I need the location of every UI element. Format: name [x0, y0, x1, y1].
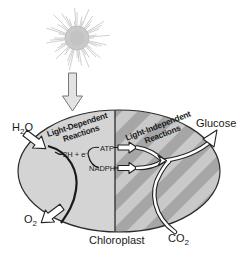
electrons-label: 2H + e-	[63, 150, 87, 160]
oxygen-label: O2	[24, 213, 38, 228]
chloroplast-label: Chloroplast	[89, 234, 145, 246]
sun-core-inner	[70, 31, 85, 46]
photosynthesis-diagram: Light-Dependent Reactions Light-Independ…	[0, 0, 247, 261]
glucose-label: Glucose	[196, 117, 236, 129]
light-energy-arrow	[63, 73, 83, 111]
carbon-dioxide-label: CO2	[168, 232, 190, 247]
atp-label: ATP	[100, 144, 114, 153]
nadph-label: NADPH	[89, 164, 115, 173]
sun-icon	[46, 8, 110, 70]
diagram-canvas: Light-Dependent Reactions Light-Independ…	[0, 0, 247, 261]
